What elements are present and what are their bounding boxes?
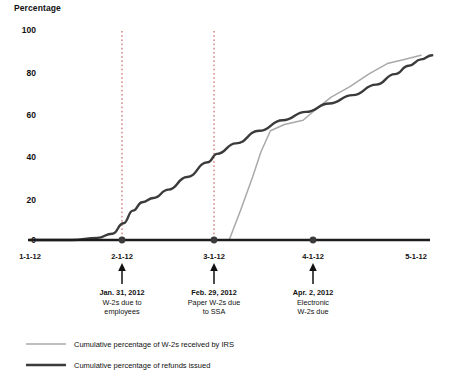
legend-label-w2s-received: Cumulative percentage of W-2s received b… [74, 340, 234, 350]
annotation-line-2: W-2s due [253, 307, 373, 317]
series-path-refunds-issued [30, 55, 432, 240]
x-tick-4-1-12: 4-1-12 [283, 252, 343, 262]
chart-container: Percentage 100 80 60 40 20 0 [0, 0, 450, 378]
annotation-line-1: Electronic [253, 298, 373, 308]
legend-label-refunds-issued: Cumulative percentage of refunds issued [74, 361, 210, 371]
x-tick-3-1-12: 3-1-12 [184, 252, 244, 262]
x-tick-1-1-12: 1-1-12 [0, 252, 60, 262]
marker-dot-3-1-12 [211, 237, 218, 244]
series-line-w2s-received [30, 55, 421, 240]
marker-dot-4-1-12 [310, 237, 317, 244]
annotation-title: Apr. 2, 2012 [253, 288, 373, 298]
x-tick-2-1-12: 2-1-12 [92, 252, 152, 262]
plot-area [0, 0, 450, 378]
callout-arrow-3-1-12 [210, 263, 218, 284]
marker-dot-2-1-12 [119, 237, 126, 244]
annotation-apr-2-2012: Apr. 2, 2012 Electronic W-2s due [253, 288, 373, 317]
x-tick-5-1-12: 5-1-12 [386, 252, 446, 262]
callout-arrow-2-1-12 [118, 263, 126, 284]
callout-arrow-4-1-12 [309, 263, 317, 284]
